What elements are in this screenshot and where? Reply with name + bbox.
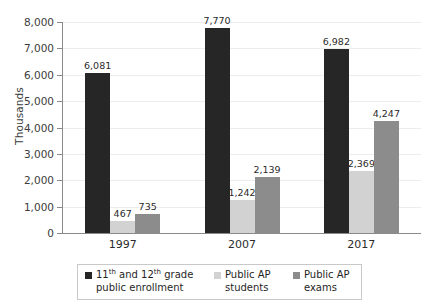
bar-value-label: 735: [139, 201, 157, 212]
bar: [374, 121, 399, 233]
legend-item-ap-exams[interactable]: Public AP exams: [293, 269, 354, 294]
x-axis-category-label: 1997: [109, 238, 137, 251]
y-axis-tick-mark: [57, 101, 62, 102]
bar-value-label: 1,242: [228, 187, 255, 198]
gridline: [63, 154, 421, 155]
bar: [135, 214, 160, 233]
y-axis-tick-label: 2,000: [6, 174, 54, 186]
bar-value-label: 467: [114, 208, 132, 219]
bar: [349, 171, 374, 233]
y-axis-tick-mark: [57, 128, 62, 129]
y-axis-tick-mark: [57, 180, 62, 181]
legend-swatch-enrollment: [85, 272, 92, 279]
y-axis-tick-label: 0: [6, 227, 54, 239]
y-axis-tick-mark: [57, 22, 62, 23]
legend-label-enrollment: 11th and 12th grade public enrollment: [96, 269, 203, 294]
gridline: [63, 48, 421, 49]
gridline: [63, 101, 421, 102]
y-axis-tick-label: 3,000: [6, 148, 54, 160]
y-axis-tick-label: 4,000: [6, 122, 54, 134]
gridline: [63, 75, 421, 76]
y-axis-tick-label: 1,000: [6, 201, 54, 213]
bar: [230, 200, 255, 233]
gridline: [63, 22, 421, 23]
y-axis-tick-mark: [57, 154, 62, 155]
y-axis-tick-mark: [57, 75, 62, 76]
bar-chart: Thousands 01,0002,0003,0004,0005,0006,00…: [0, 0, 436, 308]
y-axis-tick-label: 6,000: [6, 69, 54, 81]
bar: [85, 73, 110, 233]
bar-value-label: 6,982: [323, 36, 350, 47]
x-axis-line: [63, 233, 421, 234]
y-axis-tick-mark: [57, 207, 62, 208]
bar-value-label: 6,081: [84, 60, 111, 71]
bar-value-label: 2,139: [253, 164, 280, 175]
bar-value-label: 2,369: [348, 158, 375, 169]
gridline: [63, 128, 421, 129]
bar: [324, 49, 349, 233]
bar-value-label: 7,770: [203, 15, 230, 26]
legend-item-enrollment[interactable]: 11th and 12th grade public enrollment: [85, 269, 203, 294]
legend: 11th and 12th grade public enrollment Pu…: [77, 264, 362, 300]
bar: [255, 177, 280, 233]
legend-label-ap-students: Public AP students: [225, 269, 282, 294]
y-axis-tick-label: 8,000: [6, 16, 54, 28]
y-axis-tick-label: 5,000: [6, 95, 54, 107]
x-axis-category-label: 2007: [228, 238, 256, 251]
bar: [110, 221, 135, 233]
x-axis-category-label: 2017: [347, 238, 375, 251]
y-axis-tick-labels: 01,0002,0003,0004,0005,0006,0007,0008,00…: [0, 0, 54, 308]
legend-label-ap-exams: Public AP exams: [304, 269, 354, 294]
legend-swatch-ap-students: [214, 272, 221, 279]
legend-item-ap-students[interactable]: Public AP students: [214, 269, 282, 294]
y-axis-tick-label: 7,000: [6, 42, 54, 54]
bar-value-label: 4,247: [373, 108, 400, 119]
legend-swatch-ap-exams: [293, 272, 300, 279]
plot-area: 6,0814677357,7701,2422,1396,9822,3694,24…: [63, 22, 421, 233]
bar: [205, 28, 230, 233]
y-axis-tick-mark: [57, 233, 62, 234]
y-axis-tick-mark: [57, 48, 62, 49]
